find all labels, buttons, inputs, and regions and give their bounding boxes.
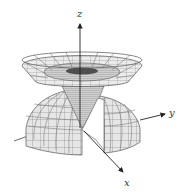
- x-axis-label: x: [124, 177, 130, 188]
- y-axis: [140, 114, 165, 120]
- funnel-apex-region: [66, 68, 98, 75]
- 3d-surface-diagram: z y x: [0, 0, 184, 193]
- z-axis-label: z: [76, 8, 83, 19]
- y-axis-label: y: [168, 107, 175, 118]
